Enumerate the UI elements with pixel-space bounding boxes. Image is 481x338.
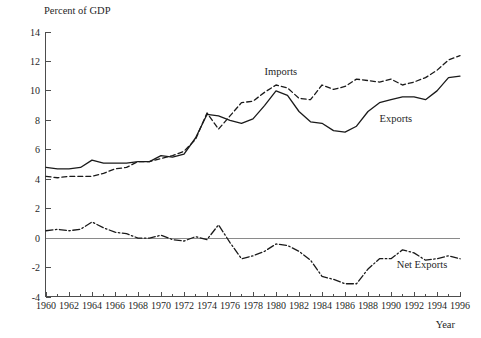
- series-label-exports: Exports: [380, 113, 413, 124]
- y-tick-label: -2: [32, 262, 40, 273]
- y-tick-label: 6: [35, 144, 40, 155]
- x-tick-label: 1978: [243, 300, 263, 311]
- line-chart: Percent of GDP 14121086420-2-4 196019621…: [0, 0, 481, 338]
- x-tick-label: 1974: [197, 300, 217, 311]
- x-tick-label: 1996: [450, 300, 470, 311]
- y-tick-label: 10: [30, 85, 40, 96]
- series-line-net-exports: [46, 222, 460, 284]
- y-tick-label: 0: [35, 233, 40, 244]
- x-axis-ticks: 1960196219641966196819701972197419761978…: [36, 292, 470, 311]
- y-axis-ticks: 14121086420-2-4: [30, 27, 51, 303]
- x-tick-label: 1984: [312, 300, 332, 311]
- x-tick-label: 1980: [266, 300, 286, 311]
- x-tick-label: 1970: [151, 300, 171, 311]
- x-tick-label: 1990: [381, 300, 401, 311]
- x-axis-title: Year: [436, 319, 456, 330]
- series-lines: [46, 56, 460, 284]
- y-tick-label: 4: [35, 174, 40, 185]
- x-tick-label: 1982: [289, 300, 309, 311]
- x-tick-label: 1988: [358, 300, 378, 311]
- x-tick-label: 1976: [220, 300, 240, 311]
- chart-container: Percent of GDP 14121086420-2-4 196019621…: [0, 0, 481, 338]
- series-label-imports: Imports: [265, 66, 298, 77]
- x-tick-label: 1962: [59, 300, 79, 311]
- x-tick-label: 1972: [174, 300, 194, 311]
- x-tick-label: 1994: [427, 300, 447, 311]
- series-label-net-exports: Net Exports: [397, 259, 447, 270]
- x-tick-label: 1992: [404, 300, 424, 311]
- y-tick-label: 2: [35, 203, 40, 214]
- x-tick-label: 1964: [82, 300, 102, 311]
- x-tick-label: 1966: [105, 300, 125, 311]
- y-tick-label: 12: [30, 56, 40, 67]
- y-tick-label: 14: [30, 27, 40, 38]
- y-tick-label: 8: [35, 115, 40, 126]
- x-tick-label: 1960: [36, 300, 56, 311]
- y-axis-title: Percent of GDP: [44, 5, 111, 16]
- x-tick-label: 1986: [335, 300, 355, 311]
- x-tick-label: 1968: [128, 300, 148, 311]
- series-annotations: ExportsImportsNet Exports: [265, 66, 448, 270]
